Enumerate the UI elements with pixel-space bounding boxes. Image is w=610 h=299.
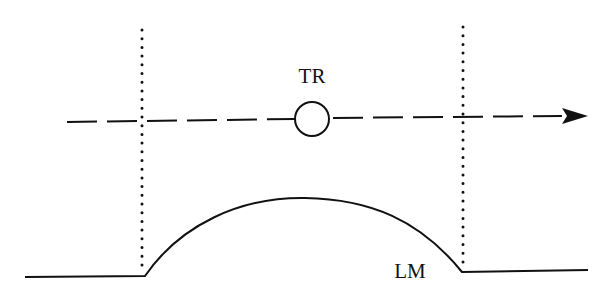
dashed-path-right: [329, 116, 562, 118]
surface-profile-curve: [25, 198, 588, 277]
tr-label: TR: [299, 64, 326, 88]
tr-marker-circle: [295, 102, 329, 136]
lm-label: LM: [394, 259, 426, 283]
dashed-path-left: [67, 119, 295, 122]
arrowhead-icon: [562, 108, 588, 124]
diagram-canvas: TR LM: [0, 0, 610, 299]
